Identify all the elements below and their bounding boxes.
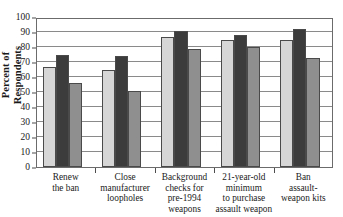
bar-group [156,19,215,167]
x-category-label-line: assault- [268,183,339,194]
bar[interactable] [306,58,319,168]
x-category-label: Banassault-weapon kits [268,172,339,204]
x-category-label-line: weapon kits [268,193,339,204]
bar[interactable] [293,29,306,167]
bar[interactable] [69,83,82,167]
bar[interactable] [56,55,69,168]
bar-group [275,19,334,167]
bar[interactable] [102,70,115,168]
y-tick-label-80: 80 [0,43,30,53]
y-tick-label-90: 90 [0,28,30,38]
bar-group [96,19,155,167]
x-category-label-line: assault weapon [208,204,279,215]
y-tick-label-40: 40 [0,103,30,113]
bar-group [215,19,274,167]
bar[interactable] [128,91,141,168]
y-tick-label-70: 70 [0,58,30,68]
bar-chart-figure: Percent of Respondents 01020304050607080… [0,0,343,217]
y-axis-ticks: 0102030405060708090100 [0,18,36,168]
bar[interactable] [221,40,234,168]
x-category-label-line: Ban [268,172,339,183]
y-tick-label-30: 30 [0,118,30,128]
x-axis-separator-tick [274,168,275,173]
bar-group [37,19,96,167]
x-axis-separator-tick [95,168,96,173]
y-tick-label-20: 20 [0,133,30,143]
bar[interactable] [188,49,201,168]
bar[interactable] [280,40,293,168]
bar[interactable] [234,35,247,167]
plot-area [36,18,333,168]
y-tick-label-60: 60 [0,73,30,83]
x-axis-separator-tick [155,168,156,173]
y-tick-label-10: 10 [0,148,30,158]
bar[interactable] [43,67,56,168]
x-axis-category-labels: Renewthe banClosemanufacturerloopholesBa… [36,172,333,217]
y-tick-label-50: 50 [0,88,30,98]
bar[interactable] [115,56,128,167]
x-axis-separator-tick [214,168,215,173]
bar[interactable] [174,31,187,168]
y-tick-label-100: 100 [0,13,30,23]
y-tick-label-0: 0 [0,163,30,173]
bar[interactable] [161,37,174,168]
bar[interactable] [247,47,260,167]
